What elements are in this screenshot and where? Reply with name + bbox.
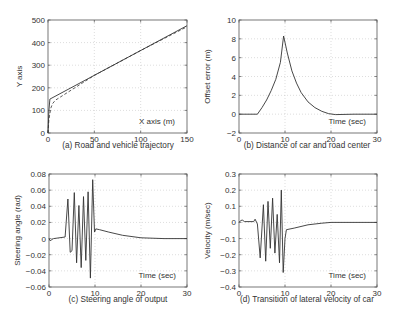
y-axis-label: Offset error (m) bbox=[203, 49, 212, 104]
y-tick-label: 0.1 bbox=[225, 202, 237, 211]
x-tick-label: 0 bbox=[46, 135, 51, 144]
x-axis-label: Time (sec) bbox=[139, 271, 177, 280]
x-tick-label: 30 bbox=[373, 289, 382, 298]
panel-caption: (c) Steering angle of output bbox=[69, 295, 168, 304]
y-tick-label: 6 bbox=[232, 54, 237, 63]
y-tick-label: 0.08 bbox=[30, 170, 46, 179]
panel-offset-error: 0102030−20246810Time (sec)Offset error (… bbox=[203, 16, 382, 150]
y-tick-label: −0.04 bbox=[26, 267, 47, 276]
y-tick-label: 300 bbox=[32, 61, 46, 70]
y-tick-label: 0.04 bbox=[30, 202, 46, 211]
y-tick-label: 0.2 bbox=[225, 186, 237, 195]
series-offset bbox=[239, 36, 377, 115]
y-axis-label: Y axis bbox=[15, 66, 24, 88]
x-tick-label: 30 bbox=[373, 135, 382, 144]
y-tick-label: −0.3 bbox=[220, 267, 236, 276]
y-tick-label: −2 bbox=[227, 129, 237, 138]
y-tick-label: 500 bbox=[32, 16, 46, 25]
x-tick-label: 0 bbox=[47, 289, 52, 298]
x-axis-label: X axis (m) bbox=[139, 117, 175, 126]
y-axis-label: Steering angle (rad) bbox=[13, 195, 22, 266]
y-tick-label: −0.1 bbox=[220, 235, 236, 244]
panel-caption: (d) Transition of lateral velocity of ca… bbox=[240, 295, 374, 304]
panel-road-trajectory: 0501001500100200300400500X axis (m)Y axi… bbox=[15, 16, 194, 150]
x-tick-label: 30 bbox=[183, 289, 192, 298]
y-tick-label: 2 bbox=[232, 91, 237, 100]
y-tick-label: 0 bbox=[232, 218, 237, 227]
panel-caption: (a) Road and vehicle trajectory bbox=[62, 141, 174, 150]
y-tick-label: 0.02 bbox=[30, 218, 46, 227]
x-tick-label: 0 bbox=[237, 135, 242, 144]
y-tick-label: −0.4 bbox=[220, 283, 236, 292]
x-axis-label: Time (sec) bbox=[329, 271, 367, 280]
y-tick-label: 0.06 bbox=[30, 186, 46, 195]
panel-caption: (b) Distance of car and road center bbox=[244, 141, 371, 150]
y-tick-label: 4 bbox=[232, 73, 237, 82]
panel-steering-angle: 0102030−0.06−0.04−0.0200.020.040.060.08T… bbox=[13, 170, 192, 304]
y-tick-label: 100 bbox=[32, 106, 46, 115]
y-tick-label: −0.2 bbox=[220, 251, 236, 260]
y-tick-label: −0.06 bbox=[26, 283, 47, 292]
series-steering bbox=[49, 180, 187, 278]
y-tick-label: 200 bbox=[32, 84, 46, 93]
x-tick-label: 150 bbox=[180, 135, 194, 144]
y-tick-label: 0.3 bbox=[225, 170, 237, 179]
series-velocity bbox=[239, 190, 377, 272]
y-tick-label: 0 bbox=[41, 129, 46, 138]
y-tick-label: 8 bbox=[232, 35, 237, 44]
panel-lateral-velocity: 0102030−0.4−0.3−0.2−0.100.10.20.3Time (s… bbox=[203, 170, 382, 304]
figure-canvas: 0501001500100200300400500X axis (m)Y axi… bbox=[0, 0, 397, 324]
y-tick-label: 0 bbox=[42, 235, 47, 244]
y-tick-label: 10 bbox=[227, 16, 236, 25]
y-tick-label: −0.02 bbox=[26, 251, 47, 260]
y-axis-label: Velocity (m/sec) bbox=[203, 202, 212, 259]
y-tick-label: 400 bbox=[32, 39, 46, 48]
x-axis-label: Time (sec) bbox=[329, 117, 367, 126]
y-tick-label: 0 bbox=[232, 110, 237, 119]
